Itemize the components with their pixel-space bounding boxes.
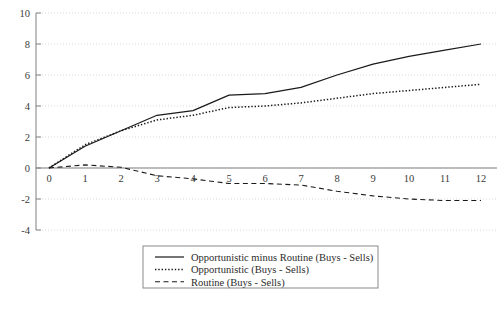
line-chart: 1086420-2-4 0123456789101112 Opportunist…	[0, 0, 503, 309]
x-tick-label: 6	[262, 173, 267, 184]
y-tick-label: 4	[25, 101, 31, 112]
x-tick-labels: 0123456789101112	[46, 173, 486, 184]
legend-label: Opportunistic minus Routine (Buys - Sell…	[191, 252, 374, 264]
y-tick-label: 0	[25, 163, 30, 174]
chart-container: 1086420-2-4 0123456789101112 Opportunist…	[0, 0, 503, 309]
x-tick-label: 4	[190, 173, 196, 184]
x-tick-label: 1	[82, 173, 87, 184]
legend-label: Routine (Buys - Sells)	[191, 277, 285, 289]
x-tick-label: 9	[370, 173, 375, 184]
x-tick-label: 11	[440, 173, 450, 184]
legend-label: Opportunistic (Buys - Sells)	[191, 264, 310, 276]
y-axis	[36, 13, 41, 230]
x-tick-label: 5	[226, 173, 231, 184]
y-tick-label: 10	[20, 8, 31, 19]
y-tick-labels: 1086420-2-4	[20, 8, 31, 236]
x-tick-label: 3	[154, 173, 159, 184]
x-tick-label: 12	[476, 173, 487, 184]
x-tick-label: 0	[46, 173, 51, 184]
x-tick-label: 8	[334, 173, 339, 184]
y-tick-label: 8	[25, 39, 30, 50]
y-tick-label: -2	[21, 194, 30, 205]
y-tick-label: 2	[25, 132, 30, 143]
y-tick-label: 6	[25, 70, 30, 81]
x-tick-label: 7	[298, 173, 303, 184]
x-tick-label: 2	[118, 173, 123, 184]
chart-legend: Opportunistic minus Routine (Buys - Sell…	[143, 246, 378, 289]
y-tick-label: -4	[21, 225, 30, 236]
x-tick-label: 10	[404, 173, 415, 184]
gridlines-group	[36, 13, 497, 230]
series-line-dotted	[49, 84, 481, 168]
